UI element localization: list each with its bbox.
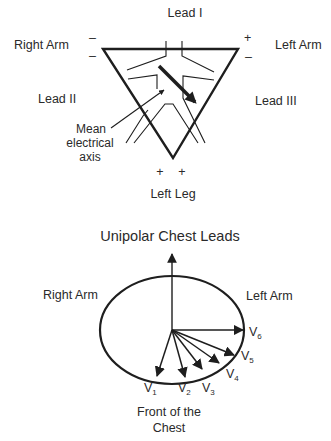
right-arm-sign-bottom: – [89, 49, 96, 63]
mean-axis-label-line-3: axis [79, 150, 100, 164]
einthoven-triangle-section: Lead I Right Arm Left Arm – – + – Lead I… [14, 6, 322, 201]
v1-vector-arrow [157, 330, 172, 376]
v3-label: V3 [202, 381, 215, 397]
front-of-chest-line-1: Front of the [137, 405, 201, 419]
lead-ii-label: Lead II [38, 92, 76, 106]
left-leg-sign-1: + [156, 165, 163, 179]
v5-label: V5 [241, 349, 254, 365]
right-arm-label: Right Arm [14, 38, 69, 52]
left-arm-label: Left Arm [275, 38, 322, 52]
chest-left-arm-label: Left Arm [246, 289, 293, 303]
mean-axis-label-line-1: Mean [76, 122, 106, 136]
chest-leads-section: Unipolar Chest Leads Right Arm Left Arm … [43, 228, 293, 435]
mean-electrical-axis-arrow [159, 66, 195, 102]
lead-i-label: Lead I [168, 6, 203, 20]
v6-label: V6 [249, 325, 262, 341]
v4-label: V4 [226, 367, 239, 383]
chest-leads-title: Unipolar Chest Leads [100, 228, 239, 244]
lead-iii-label: Lead III [255, 94, 297, 108]
mean-axis-label-line-2: electrical [66, 136, 113, 150]
mean-axis-pointer-arrow [111, 90, 164, 128]
front-of-chest-line-2: Chest [153, 421, 186, 435]
chest-right-arm-label: Right Arm [43, 288, 98, 302]
right-arm-sign-top: – [89, 31, 96, 45]
left-leg-sign-2: + [178, 165, 185, 179]
lead-i-wire-right [182, 41, 214, 72]
ecg-leads-diagram: Lead I Right Arm Left Arm – – + – Lead I… [0, 0, 331, 441]
left-arm-sign-top: + [244, 31, 251, 45]
left-leg-label: Left Leg [150, 187, 195, 201]
lead-ii-wire [128, 75, 157, 89]
left-arm-sign-bottom: – [245, 50, 252, 64]
